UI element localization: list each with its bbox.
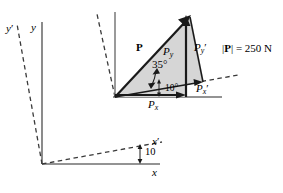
main-y-label: y xyxy=(31,22,36,33)
main-x-prime-axis xyxy=(42,142,162,164)
inset-px-prime-label: Px′ xyxy=(196,83,209,96)
main-x-label: x xyxy=(152,167,157,178)
inset-px-label: Px xyxy=(148,99,158,112)
inset-py-label: Py xyxy=(163,46,173,59)
inset-vector-p-label: P xyxy=(136,42,143,53)
main-rotation-angle-label: 10 xyxy=(145,147,156,158)
main-y-prime-label: y′ xyxy=(6,23,13,34)
magnitude-label: |P| = 250 N xyxy=(222,43,272,54)
figure-drawing xyxy=(0,0,283,193)
figure-container: y′ y x′ 10 x P Py Py′ Px Px′ 35° 10° |P|… xyxy=(0,0,283,193)
main-y-prime-axis xyxy=(17,24,42,164)
inset-py-prime-label: Py′ xyxy=(194,42,207,55)
inset-y-prime-axis xyxy=(97,14,115,97)
inset-angle-10-label: 10° xyxy=(165,84,178,94)
inset-angle-35-label: 35° xyxy=(152,59,167,70)
